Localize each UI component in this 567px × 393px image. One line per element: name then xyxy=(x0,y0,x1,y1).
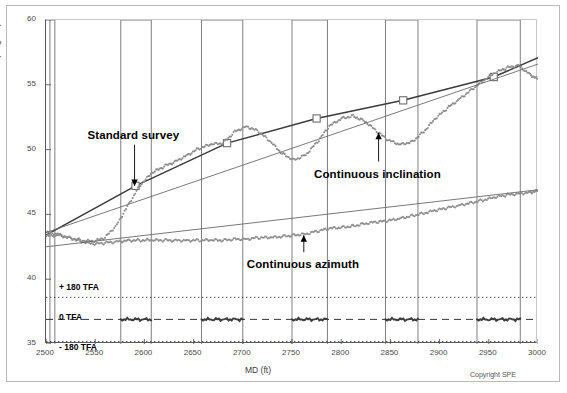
x-tick-label-2900: 2900 xyxy=(419,348,459,357)
x-tick-label-2800: 2800 xyxy=(320,348,360,357)
survey-band-1 xyxy=(50,20,55,344)
x-tick-label-2750: 2750 xyxy=(271,348,311,357)
y-tick-label-60: 60 xyxy=(14,14,36,23)
x-tick-label-2600: 2600 xyxy=(123,348,163,357)
annotation-arrow-head-continuous-azimuth xyxy=(301,235,307,242)
y-axis-label: INCLINATION (degree) xyxy=(0,0,1,120)
y-tick-label-45: 45 xyxy=(14,208,36,217)
x-axis-label: MD (ft) xyxy=(245,365,271,375)
annotation-standard-survey: Standard survey xyxy=(88,129,180,141)
y-tick-label-50: 50 xyxy=(14,144,36,153)
x-tick-label-2650: 2650 xyxy=(173,348,213,357)
survey-station-marker xyxy=(400,97,407,104)
annotation-continuous-azimuth: Continuous azimuth xyxy=(247,258,359,270)
y-tick-label-35: 35 xyxy=(14,338,36,347)
survey-station-marker xyxy=(313,115,320,122)
survey-band-5 xyxy=(385,20,417,344)
y-tick-label-40: 40 xyxy=(14,273,36,282)
survey-band-3 xyxy=(201,20,242,344)
plot-area xyxy=(45,19,537,343)
copyright-notice: Copyright SPE xyxy=(470,371,516,378)
survey-band-4 xyxy=(292,20,327,344)
tfa-trace-4 xyxy=(385,318,417,321)
plot-canvas xyxy=(46,20,538,344)
tfa-label-zero-tfa: 0 TFA xyxy=(59,312,82,322)
y-tick-label-55: 55 xyxy=(14,79,36,88)
annotation-continuous-inclination: Continuous inclination xyxy=(314,168,441,180)
x-tick-label-2700: 2700 xyxy=(222,348,262,357)
tfa-label-minus-180-tfa: - 180 TFA xyxy=(59,342,97,352)
x-tick-label-2950: 2950 xyxy=(468,348,508,357)
tfa-trace-3 xyxy=(292,318,327,321)
tfa-trace-1 xyxy=(121,318,152,321)
figure-container: INCLINATION (degree) MD (ft) Copyright S… xyxy=(0,0,567,393)
tfa-trace-2 xyxy=(201,318,242,321)
x-tick-label-3000: 3000 xyxy=(517,348,557,357)
tfa-label-plus-180-tfa: + 180 TFA xyxy=(59,282,99,292)
x-tick-label-2850: 2850 xyxy=(369,348,409,357)
